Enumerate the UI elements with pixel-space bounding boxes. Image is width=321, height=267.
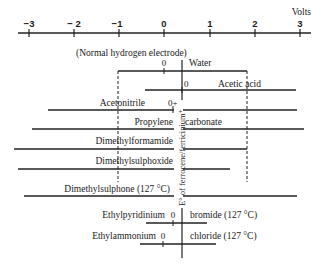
svg-text:Ethylpyridinium: Ethylpyridinium: [102, 210, 165, 220]
svg-text:Dimethylsulphone (127 °C): Dimethylsulphone (127 °C): [64, 184, 170, 195]
svg-text:Propylene: Propylene: [134, 117, 173, 127]
tick-label: 3: [297, 18, 302, 29]
svg-text:0+: 0+: [168, 98, 178, 108]
svg-text:chloride (127 °C): chloride (127 °C): [190, 231, 257, 242]
volts-axis: −3 − 2 −1 0 1 2 3 Volts: [18, 7, 311, 37]
tick-label: 0: [161, 18, 166, 29]
solvent-ethylpyridinium-bromide: Ethylpyridinium 0 bromide (127 °C): [102, 210, 257, 226]
solvent-propylene-carbonate: Propylene carbonate: [32, 117, 304, 129]
axis-unit-label: Volts: [292, 7, 312, 17]
tick-label: − 2: [67, 18, 80, 29]
reference-electrode-label: (Normal hydrogen electrode): [76, 48, 187, 59]
solvent-dimethylsulphoxide: Dimethylsulphoxide: [18, 156, 230, 169]
tick-label: −3: [24, 18, 35, 29]
solvent-dimethylformamide: Dimethylformamide: [14, 136, 247, 149]
solvent-ethylammonium-chloride: Ethylammonium 0 chloride (127 °C): [92, 231, 256, 247]
solvent-acetic-acid: 0 Acetic acid: [145, 79, 296, 93]
svg-text:0: 0: [162, 58, 167, 68]
svg-text:Dimethylformamide: Dimethylformamide: [95, 136, 173, 146]
svg-text:0: 0: [184, 79, 189, 89]
svg-text:Dimethylsulphoxide: Dimethylsulphoxide: [95, 156, 173, 166]
svg-text:Ethylammonium: Ethylammonium: [92, 231, 156, 241]
tick-label: 2: [252, 18, 257, 29]
solvent-dimethylsulphone: Dimethylsulphone (127 °C): [24, 184, 297, 196]
svg-text:0: 0: [161, 231, 166, 241]
tick-label: −1: [112, 18, 124, 29]
svg-text:carbonate: carbonate: [185, 117, 222, 127]
solvent-acetonitrile: Acetonitrile 0+: [48, 98, 297, 113]
svg-text:Water: Water: [189, 58, 212, 68]
solvent-potential-diagram: −3 − 2 −1 0 1 2 3 Volts (Normal hydrogen…: [0, 0, 321, 267]
svg-text:bromide (127 °C): bromide (127 °C): [190, 210, 257, 221]
svg-text:Acetonitrile: Acetonitrile: [100, 98, 145, 108]
svg-text:0: 0: [171, 210, 176, 220]
tick-label: 1: [207, 18, 213, 29]
svg-text:Acetic acid: Acetic acid: [218, 79, 261, 89]
